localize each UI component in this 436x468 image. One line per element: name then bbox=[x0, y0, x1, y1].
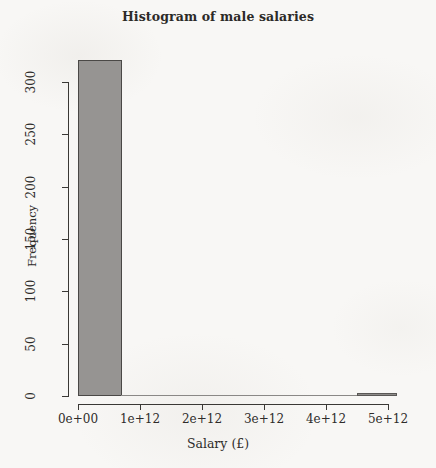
x-axis-line bbox=[78, 404, 388, 405]
chart-title: Histogram of male salaries bbox=[0, 9, 436, 24]
histogram-bar bbox=[201, 395, 242, 396]
y-tick-mark bbox=[62, 396, 69, 397]
y-tick-mark bbox=[62, 82, 69, 83]
y-tick-mark bbox=[62, 187, 69, 188]
x-tick-mark bbox=[388, 404, 389, 410]
x-tick-label: 5e+12 bbox=[353, 412, 423, 426]
y-tick-label: 300 bbox=[24, 55, 38, 109]
histogram-bar bbox=[281, 395, 322, 396]
y-tick-label: 0 bbox=[24, 369, 38, 423]
y-tick-mark bbox=[62, 134, 69, 135]
y-axis-title: Frequency bbox=[18, 186, 46, 286]
histogram-bar bbox=[321, 395, 358, 396]
y-tick-label: 50 bbox=[24, 317, 38, 371]
y-tick-label-wrap: 50 bbox=[4, 337, 58, 351]
histogram-bar bbox=[161, 395, 202, 396]
x-tick-label: 2e+12 bbox=[167, 412, 237, 426]
x-axis-title: Salary (£) bbox=[0, 436, 436, 451]
y-tick-label-wrap: 100 bbox=[4, 284, 58, 298]
x-tick-mark bbox=[202, 404, 203, 410]
histogram-bar bbox=[121, 395, 162, 396]
y-tick-mark bbox=[62, 239, 69, 240]
y-tick-mark bbox=[62, 291, 69, 292]
histogram-plot: Histogram of male salaries 0e+00 1e+12 2… bbox=[0, 0, 436, 468]
y-tick-label: 250 bbox=[24, 107, 38, 161]
x-tick-label: 3e+12 bbox=[229, 412, 299, 426]
y-axis-title-text: Frequency bbox=[25, 205, 39, 267]
y-tick-label-wrap: 0 bbox=[4, 389, 58, 403]
x-tick-mark bbox=[78, 404, 79, 410]
x-tick-mark bbox=[326, 404, 327, 410]
y-tick-mark bbox=[62, 344, 69, 345]
x-tick-label: 1e+12 bbox=[105, 412, 175, 426]
y-tick-label-wrap: 250 bbox=[4, 127, 58, 141]
y-tick-label-wrap: 300 bbox=[4, 75, 58, 89]
x-tick-label: 4e+12 bbox=[291, 412, 361, 426]
paper-texture-overlay bbox=[0, 0, 436, 468]
x-tick-mark bbox=[140, 404, 141, 410]
histogram-bar bbox=[78, 60, 122, 396]
histogram-bar bbox=[357, 393, 397, 396]
x-tick-mark bbox=[264, 404, 265, 410]
histogram-bar bbox=[241, 395, 282, 396]
x-tick-label: 0e+00 bbox=[43, 412, 113, 426]
